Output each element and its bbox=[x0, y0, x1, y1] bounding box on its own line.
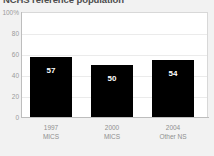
x-tick-year: 1997 bbox=[25, 123, 77, 132]
x-tick-1997-mics: 1997 MICS bbox=[25, 123, 77, 141]
bar-chart: NCHS reference population 100% 80 60 40 … bbox=[0, 0, 214, 156]
bar-1997-mics[interactable]: 57 bbox=[30, 57, 72, 117]
x-tick-year: 2000 bbox=[86, 123, 138, 132]
bar-2000-mics[interactable]: 50 bbox=[91, 65, 133, 118]
x-tick-2000-mics: 2000 MICS bbox=[86, 123, 138, 141]
y-tick-20: 20 bbox=[0, 93, 19, 100]
y-axis-line bbox=[21, 12, 22, 118]
x-tick-source: MICS bbox=[25, 132, 77, 141]
gridline-80 bbox=[21, 34, 207, 35]
x-tick-2004-other-ns: 2004 Other NS bbox=[147, 123, 199, 141]
x-tick-year: 2004 bbox=[147, 123, 199, 132]
y-tick-60: 60 bbox=[0, 51, 19, 58]
chart-title: NCHS reference population bbox=[3, 0, 211, 5]
bar-2004-other-ns[interactable]: 54 bbox=[152, 60, 194, 117]
bar-value-label: 54 bbox=[152, 69, 194, 78]
gridline-60 bbox=[21, 55, 207, 56]
bar-value-label: 57 bbox=[30, 66, 72, 75]
x-tick-source: MICS bbox=[86, 132, 138, 141]
y-tick-0: 0 bbox=[0, 114, 19, 121]
x-axis-line bbox=[21, 117, 209, 118]
y-tick-80: 80 bbox=[0, 30, 19, 37]
bar-value-label: 50 bbox=[91, 74, 133, 83]
x-tick-source: Other NS bbox=[147, 132, 199, 141]
y-tick-100: 100% bbox=[0, 9, 19, 16]
y-tick-40: 40 bbox=[0, 72, 19, 79]
y-axis-tick-labels: 100% 80 60 40 20 0 bbox=[0, 0, 19, 156]
